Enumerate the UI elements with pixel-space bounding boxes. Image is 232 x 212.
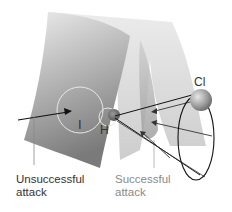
label-unsuccessful-line1: Unsuccessful	[16, 173, 84, 186]
cl-atom-sphere	[190, 89, 212, 111]
label-successful-line1: Successful	[115, 173, 171, 186]
label-successful-line2: attack	[115, 186, 146, 199]
label-cl: Cl	[194, 76, 205, 89]
surface-front-sheet	[24, 12, 130, 168]
label-h: H	[100, 124, 109, 137]
label-unsuccessful-line2: attack	[16, 186, 47, 199]
label-intermediate: I	[78, 118, 82, 131]
attack-arrow-line-3	[143, 133, 170, 158]
